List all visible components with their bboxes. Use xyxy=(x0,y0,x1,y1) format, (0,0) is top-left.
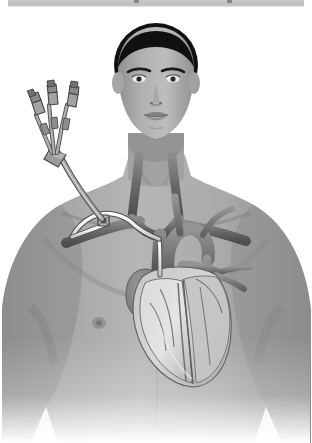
lumen-2-port[interactable] xyxy=(48,92,58,105)
medical-illustration xyxy=(0,7,312,443)
right-ear xyxy=(112,72,124,94)
window-toolbar-strip[interactable] xyxy=(8,0,304,7)
right-nipple-center xyxy=(96,320,102,325)
lumen-2-port-tip xyxy=(47,80,55,87)
left-nostril xyxy=(159,102,162,104)
lumen-3[interactable] xyxy=(57,81,79,153)
left-ear xyxy=(188,72,200,94)
illustration-canvas xyxy=(0,0,312,443)
catheter-tip-in-svc-core xyxy=(159,239,160,275)
right-pupil xyxy=(136,76,141,81)
toolbar-notch-icon xyxy=(134,0,139,3)
anatomy-artwork xyxy=(0,7,312,443)
lumen-1-port-tip xyxy=(27,89,36,97)
left-pupil xyxy=(170,76,175,81)
lumen-3-port-tip xyxy=(70,81,78,88)
lumen-2-clamp-icon[interactable] xyxy=(51,117,58,129)
toolbar-notch-icon xyxy=(227,0,232,3)
right-nostril xyxy=(150,102,153,104)
